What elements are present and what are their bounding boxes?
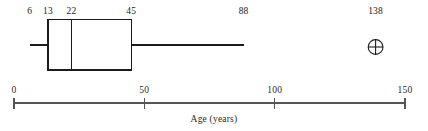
value-label-q3: 45 [126, 6, 136, 17]
value-label-outlier: 138 [368, 6, 383, 17]
box-iqr [48, 20, 131, 71]
x-tick-label-50: 50 [139, 85, 149, 96]
x-tick-label-150: 150 [398, 85, 413, 96]
outlier-marker-circle-plus [368, 40, 383, 55]
value-label-max: 88 [239, 6, 249, 17]
boxplot-figure: 6 13 22 45 88 138 0 50 100 150 Age (year… [0, 0, 428, 131]
boxplot-canvas [0, 0, 428, 131]
x-tick-label-0: 0 [12, 85, 17, 96]
x-axis-title: Age (years) [191, 114, 238, 125]
value-label-min: 6 [27, 6, 32, 17]
value-label-median: 22 [67, 6, 77, 17]
x-tick-label-100: 100 [267, 85, 282, 96]
value-label-q1: 13 [43, 6, 53, 17]
